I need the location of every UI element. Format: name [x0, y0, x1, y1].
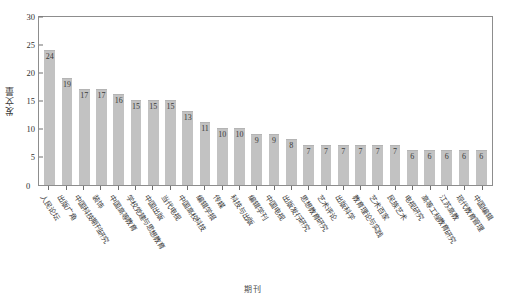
- bar-value-label: 17: [80, 92, 88, 100]
- y-axis-tick-label: 15: [27, 96, 36, 106]
- x-axis-label-cell: 高等工程教育研究: [422, 190, 439, 275]
- y-axis-title: 发文量: [2, 86, 16, 116]
- x-axis-label-cell: 中国出版: [144, 190, 161, 275]
- x-axis-label-cell: 编辑学刊: [248, 190, 265, 275]
- x-axis-category-label: 传媒: [212, 192, 229, 210]
- x-axis-label-cell: 人民论坛: [40, 190, 57, 275]
- bar-value-label: 6: [427, 153, 431, 161]
- bar-value-label: 6: [479, 153, 483, 161]
- bar-cell: 11: [196, 17, 213, 185]
- x-axis-label-cell: 中国科技期刊研究: [75, 190, 92, 275]
- bar: 7: [390, 145, 401, 185]
- bar-value-label: 10: [218, 131, 226, 139]
- bar: 6: [459, 150, 470, 185]
- y-axis-tick-label: 5: [31, 152, 35, 162]
- y-axis-tick-label: 25: [27, 40, 36, 50]
- bar: 8: [286, 139, 297, 185]
- x-axis-title: 期刊: [0, 283, 505, 294]
- bar: 24: [44, 50, 55, 185]
- bar-cell: 7: [386, 17, 403, 185]
- bar-cell: 6: [421, 17, 438, 185]
- bar: 15: [131, 100, 142, 185]
- bar: 15: [165, 100, 176, 185]
- bar: 6: [407, 150, 418, 185]
- bar-cell: 6: [438, 17, 455, 185]
- bar-value-label: 7: [376, 148, 380, 156]
- bar-cell: 13: [179, 17, 196, 185]
- bar-cell: 6: [455, 17, 472, 185]
- bar-value-label: 17: [97, 92, 105, 100]
- x-axis-label-cell: 思想教育研究: [300, 190, 317, 275]
- bar-value-label: 8: [289, 142, 293, 150]
- bar-value-label: 7: [341, 148, 345, 156]
- bar-value-label: 7: [358, 148, 362, 156]
- bar: 7: [372, 145, 383, 185]
- bar: 6: [424, 150, 435, 185]
- bar-value-label: 9: [272, 137, 276, 145]
- bar-value-label: 7: [307, 148, 311, 156]
- bar: 9: [269, 134, 280, 185]
- y-axis-tick-label: 10: [27, 124, 36, 134]
- x-axis-label-cell: 电视研究: [404, 190, 421, 275]
- bar-cell: 6: [404, 17, 421, 185]
- x-axis-label-cell: 出版广角: [57, 190, 74, 275]
- x-axis-label-cell: 出版科学: [335, 190, 352, 275]
- bar: 17: [79, 89, 90, 185]
- x-axis-label-cell: 中国高校科技: [179, 190, 196, 275]
- bar-value-label: 6: [445, 153, 449, 161]
- bar-cell: 15: [162, 17, 179, 185]
- y-axis-zero-label: 0: [26, 181, 30, 191]
- bar: 6: [441, 150, 452, 185]
- bar-cell: 24: [41, 17, 58, 185]
- bar-cell: 7: [335, 17, 352, 185]
- bar: 15: [148, 100, 159, 185]
- bar-cell: 7: [300, 17, 317, 185]
- bar: 10: [234, 128, 245, 185]
- plot-area: 30252015105 2419171716151515131110109987…: [38, 16, 493, 186]
- x-axis-label-cell: 学校党建与思想教育: [127, 190, 144, 275]
- bar-cell: 15: [127, 17, 144, 185]
- x-axis-label-cell: 当代电视: [161, 190, 178, 275]
- bars-container: 24191717161515151311101099877777766666: [39, 17, 492, 185]
- y-axis-tick-label: 30: [27, 12, 36, 22]
- x-axis-category-label: 装饰: [90, 192, 107, 210]
- x-axis-label-cell: 艺术评论: [318, 190, 335, 275]
- bar-cell: 16: [110, 17, 127, 185]
- bar-cell: 8: [283, 17, 300, 185]
- bar: 10: [217, 128, 228, 185]
- bar-value-label: 7: [393, 148, 397, 156]
- bar: 13: [182, 111, 193, 185]
- bar: 19: [62, 78, 73, 185]
- bar-value-label: 6: [410, 153, 414, 161]
- bar-chart-figure: 发文量 30252015105 241917171615151513111010…: [0, 0, 505, 295]
- bar-cell: 7: [369, 17, 386, 185]
- x-axis-label-cell: 江苏高教: [439, 190, 456, 275]
- bar-cell: 19: [58, 17, 75, 185]
- bar-value-label: 10: [236, 131, 244, 139]
- bar-cell: 17: [93, 17, 110, 185]
- bar: 9: [251, 134, 262, 185]
- bar: 17: [96, 89, 107, 185]
- x-axis-label-cell: 编辑学报: [196, 190, 213, 275]
- bar-cell: 9: [248, 17, 265, 185]
- bar: 7: [338, 145, 349, 185]
- bar-cell: 9: [265, 17, 282, 185]
- x-axis-label-cell: 装饰: [92, 190, 109, 275]
- bar-value-label: 16: [115, 97, 123, 105]
- bar-cell: 7: [352, 17, 369, 185]
- bar-value-label: 11: [201, 125, 209, 133]
- bar-value-label: 19: [63, 81, 71, 89]
- top-caption-fragment: [0, 0, 505, 9]
- x-axis-label-cell: 教育理论与实践: [352, 190, 369, 275]
- bar-cell: 10: [231, 17, 248, 185]
- x-axis-category-labels: 人民论坛出版广角中国科技期刊研究装饰中国高等教育学校党建与思想教育中国出版当代电…: [38, 190, 493, 275]
- bar-cell: 6: [473, 17, 490, 185]
- bar-value-label: 15: [149, 103, 157, 111]
- bar-value-label: 6: [462, 153, 466, 161]
- bar-value-label: 9: [255, 137, 259, 145]
- x-axis-label-cell: 现代教育管理: [456, 190, 473, 275]
- x-axis-label-cell: 中国电视: [265, 190, 282, 275]
- x-axis-label-cell: 艺术百家: [370, 190, 387, 275]
- bar-cell: 17: [76, 17, 93, 185]
- x-axis-label-cell: 出版发行研究: [283, 190, 300, 275]
